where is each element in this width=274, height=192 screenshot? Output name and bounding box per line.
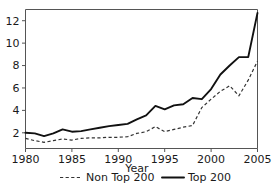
y-tick-label: 2: [13, 127, 20, 140]
y-tick-label: 8: [13, 59, 20, 72]
legend-label: Top 200: [187, 171, 231, 184]
y-axis-ticks: 24681012: [6, 15, 26, 140]
line-chart: 24681012 198019851990199520002005 Year N…: [0, 0, 274, 192]
legend-label: Non Top 200: [86, 171, 154, 184]
x-tick-label: 2005: [244, 153, 272, 166]
series-layer: [26, 13, 258, 142]
y-tick-label: 4: [13, 104, 20, 117]
x-tick-label: 2000: [197, 153, 225, 166]
y-tick-label: 12: [6, 15, 20, 28]
chart-figure: 24681012 198019851990199520002005 Year N…: [0, 0, 274, 192]
y-tick-label: 10: [6, 37, 20, 50]
x-tick-label: 1995: [151, 153, 179, 166]
x-tick-label: 1985: [58, 153, 86, 166]
series-line-top-200: [26, 13, 258, 136]
y-tick-label: 6: [13, 82, 20, 95]
x-tick-label: 1980: [12, 153, 40, 166]
chart-legend: Non Top 200Top 200: [60, 171, 231, 184]
plot-frame: [26, 10, 258, 149]
